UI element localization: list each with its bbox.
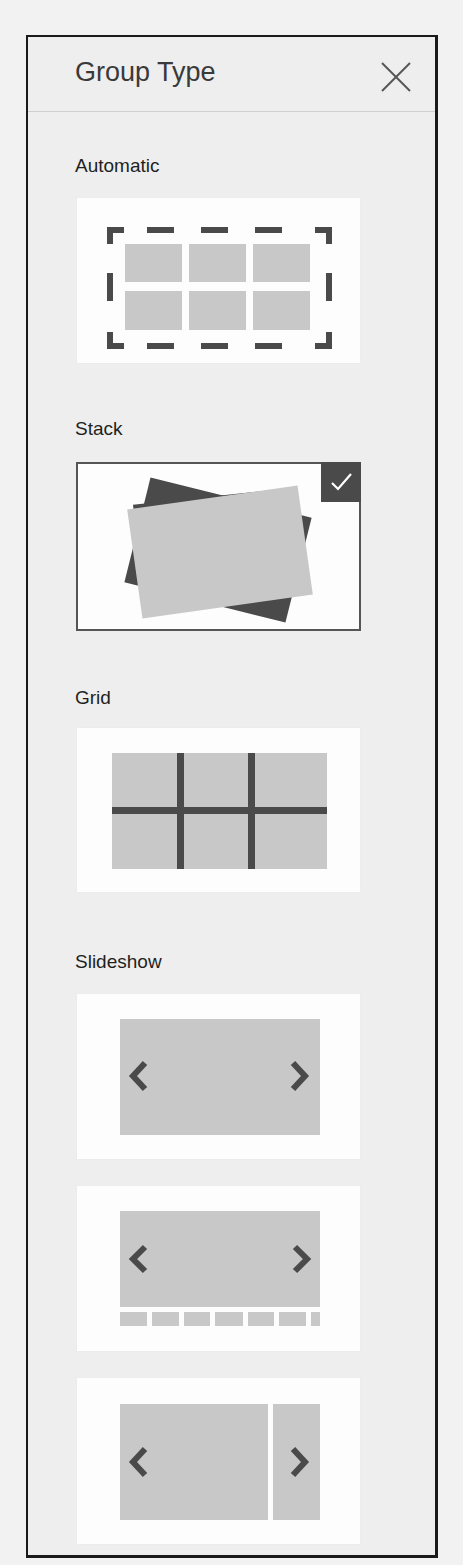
checkmark-icon [321, 462, 361, 502]
option-slideshow-peek[interactable] [76, 1377, 361, 1545]
close-icon [378, 59, 414, 95]
close-button[interactable] [378, 59, 414, 95]
section-label-slideshow: Slideshow [75, 951, 162, 973]
slideshow-arrows-icon [77, 994, 362, 1161]
option-slideshow-thumbnails[interactable] [76, 1185, 361, 1352]
group-type-panel: Group Type Automatic [26, 35, 438, 1558]
selected-badge [321, 462, 361, 502]
automatic-layout-icon [77, 198, 362, 365]
section-label-automatic: Automatic [75, 155, 159, 177]
option-grid[interactable] [76, 727, 361, 893]
slideshow-thumbnails-icon [77, 1186, 362, 1353]
option-stack[interactable] [76, 462, 361, 631]
grid-layout-icon [77, 728, 362, 894]
section-label-grid: Grid [75, 687, 111, 709]
section-label-stack: Stack [75, 418, 123, 440]
slideshow-peek-icon [77, 1378, 362, 1546]
option-slideshow-basic[interactable] [76, 993, 361, 1160]
panel-header: Group Type [28, 37, 435, 112]
panel-title: Group Type [75, 57, 216, 88]
option-automatic[interactable] [76, 197, 361, 364]
